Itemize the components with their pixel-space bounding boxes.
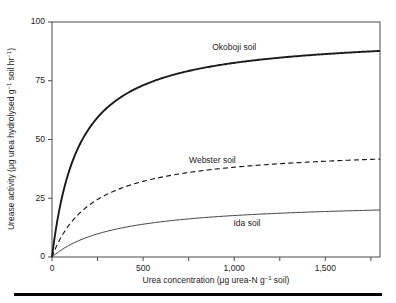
y-axis-title: Urease activity (μg urea hydrolysed g−1 … bbox=[6, 48, 16, 230]
y-axis-tick-labels: 0255075100 bbox=[31, 16, 45, 261]
x-tick-label: 1,000 bbox=[224, 263, 246, 273]
series-label-webster-soil: Webster soil bbox=[189, 155, 236, 165]
x-tick-label: 500 bbox=[136, 263, 150, 273]
urease-activity-figure: 0255075100 05001,0001,500 Okoboji soilWe… bbox=[0, 0, 396, 303]
x-tick-label: 1,500 bbox=[315, 263, 337, 273]
y-tick-label: 25 bbox=[36, 193, 46, 203]
curve-webster-soil bbox=[52, 159, 380, 257]
x-axis-tick-labels: 05001,0001,500 bbox=[50, 263, 337, 273]
x-tick-label: 0 bbox=[50, 263, 55, 273]
x-axis-ticks bbox=[52, 257, 371, 261]
y-tick-label: 100 bbox=[31, 16, 45, 26]
curve-okoboji-soil bbox=[52, 51, 380, 257]
urease-kinetics-chart: 0255075100 05001,0001,500 Okoboji soilWe… bbox=[0, 0, 396, 285]
plot-area-frame bbox=[52, 22, 380, 257]
y-axis-ticks bbox=[48, 22, 52, 257]
footer-rule bbox=[14, 293, 382, 296]
y-tick-label: 50 bbox=[36, 134, 46, 144]
y-tick-label: 75 bbox=[36, 75, 46, 85]
series-annotations: Okoboji soilWebster soilIda soil bbox=[189, 42, 261, 228]
y-tick-label: 0 bbox=[40, 251, 45, 261]
series-label-okoboji-soil: Okoboji soil bbox=[212, 42, 256, 52]
curve-ida-soil bbox=[52, 210, 380, 257]
data-curves bbox=[52, 51, 380, 257]
x-axis-title: Urea concentration (μg urea-N g−1 soil) bbox=[143, 275, 290, 285]
series-label-ida-soil: Ida soil bbox=[234, 218, 261, 228]
